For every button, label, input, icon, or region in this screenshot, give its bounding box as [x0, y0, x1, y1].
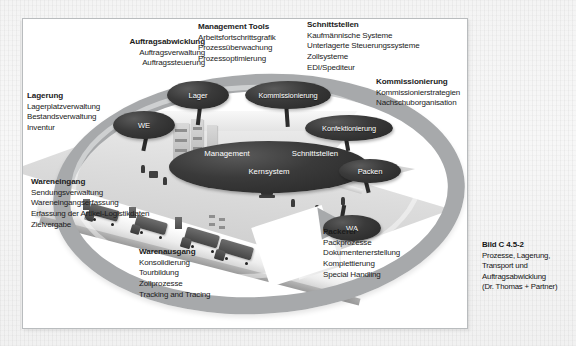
text-block-schnittstellen: Schnittstellen Kaufmännische Systeme Unt…: [307, 20, 419, 73]
block-item: Zollsysteme: [307, 52, 419, 63]
caption-label: Bild C 4.5-2: [482, 240, 574, 251]
ellipse-label-management: Management: [183, 149, 271, 158]
ellipse-kommissionierung: Kommissionierung: [245, 81, 331, 109]
illustration-stage: Management Schnittstellen Kernsystem Lag…: [23, 19, 467, 328]
block-item: EDI/Spediteur: [307, 63, 419, 74]
block-item: Prozessoptimierung: [198, 54, 276, 65]
block-item: Wareneingangserfassung: [31, 198, 149, 209]
ellipse-packen: Packen: [339, 159, 401, 183]
block-heading: Auftragsabwicklung: [83, 37, 205, 48]
ellipse-we: WE: [113, 111, 175, 139]
caption-line: Prozesse, Lagerung,: [482, 251, 574, 262]
block-item: Nachschuborganisation: [376, 98, 460, 109]
figure-caption: Bild C 4.5-2 Prozesse, Lagerung, Transpo…: [482, 240, 574, 293]
block-item: Zielvergabe: [31, 220, 149, 231]
block-heading: Packerei: [323, 227, 400, 238]
block-item: Kaufmännische Systeme: [307, 31, 419, 42]
scanned-figure-page: Management Schnittstellen Kernsystem Lag…: [0, 0, 576, 346]
block-heading: Management Tools: [198, 22, 276, 33]
caption-line: (Dr. Thomas + Partner): [482, 282, 574, 293]
block-item: Prozessüberwachung: [198, 43, 276, 54]
block-item: Bestandsverwaltung: [27, 112, 100, 123]
caption-line: Transport und: [482, 261, 574, 272]
block-item: Zollprozesse: [139, 279, 210, 290]
figure-frame: Management Schnittstellen Kernsystem Lag…: [22, 18, 468, 329]
block-heading: Wareneingang: [31, 177, 149, 188]
block-item: Arbeitsfortschrittsgrafik: [198, 33, 276, 44]
text-block-auftragsabwicklung: Auftragsabwicklung Auftragsverwaltung Au…: [83, 37, 205, 69]
block-item: Special Handling: [323, 270, 400, 281]
block-item: Packprozesse: [323, 238, 400, 249]
block-heading: Warenausgang: [139, 247, 210, 258]
text-block-lagerung: Lagerung Lagerplatzverwaltung Bestandsve…: [27, 91, 100, 134]
block-item: Inventur: [27, 123, 100, 134]
text-block-management-tools: Management Tools Arbeitsfortschrittsgraf…: [198, 22, 276, 65]
block-heading: Kommissionierung: [376, 77, 460, 88]
block-item: Komplettierung: [323, 259, 400, 270]
block-item: Tracking and Tracing: [139, 290, 210, 301]
block-item: Kommissionierstrategien: [376, 88, 460, 99]
block-item: Lagerplatzverwaltung: [27, 102, 100, 113]
ellipse-label-kernsystem: Kernsystem: [219, 167, 319, 176]
block-item: Auftragssteuerung: [83, 58, 205, 69]
text-block-wareneingang: Wareneingang Sendungsverwaltung Warenein…: [31, 177, 149, 230]
ellipse-lager: Lager: [167, 81, 229, 109]
block-item: Dokumentenerstellung: [323, 248, 400, 259]
block-item: Tourbildung: [139, 268, 210, 279]
ellipse-konfektionierung: Konfektionierung: [305, 115, 393, 141]
block-item: Erfassung der Artikel-Logistikdaten: [31, 209, 149, 220]
block-item: Unterlagerte Steuerungssysteme: [307, 41, 419, 52]
caption-line: Auftragsabwicklung: [482, 272, 574, 283]
text-block-packerei: Packerei Packprozesse Dokumentenerstellu…: [323, 227, 400, 280]
block-item: Sendungsverwaltung: [31, 188, 149, 199]
text-block-kommissionierung: Kommissionierung Kommissionierstrategien…: [376, 77, 460, 109]
ellipse-label-schnittstellen: Schnittstellen: [271, 149, 359, 158]
text-block-warenausgang: Warenausgang Konsolidierung Tourbildung …: [139, 247, 210, 300]
block-item: Auftragsverwaltung: [83, 48, 205, 59]
block-heading: Schnittstellen: [307, 20, 419, 31]
block-heading: Lagerung: [27, 91, 100, 102]
block-item: Konsolidierung: [139, 258, 210, 269]
